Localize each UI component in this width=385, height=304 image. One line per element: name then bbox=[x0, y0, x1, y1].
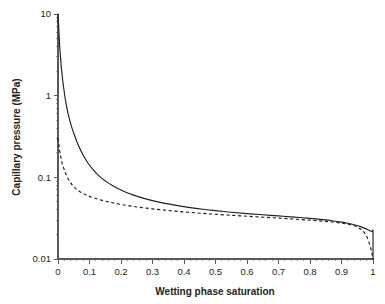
chart-canvas: 1010.10.01 00.10.20.30.40.50.60.70.80.91… bbox=[0, 0, 385, 304]
x-tick-label: 0.5 bbox=[209, 266, 222, 277]
capillary-pressure-chart: 1010.10.01 00.10.20.30.40.50.60.70.80.91… bbox=[0, 0, 385, 304]
x-tick-label: 0.2 bbox=[114, 266, 127, 277]
x-tick-label: 0 bbox=[55, 266, 60, 277]
y-axis-title: Capillary pressure (MPa) bbox=[11, 78, 22, 195]
x-tick-label: 0.1 bbox=[83, 266, 96, 277]
x-tick-label: 1 bbox=[370, 266, 375, 277]
y-tick-label: 0.1 bbox=[38, 172, 51, 183]
y-tick-label: 0.01 bbox=[33, 253, 52, 264]
x-tick-label: 0.4 bbox=[177, 266, 190, 277]
x-tick-label: 0.7 bbox=[272, 266, 285, 277]
y-tick-label: 1 bbox=[46, 90, 51, 101]
x-tick-label: 0.8 bbox=[303, 266, 316, 277]
x-tick-label: 0.3 bbox=[146, 266, 159, 277]
y-axis-tick-labels: 1010.10.01 bbox=[33, 8, 52, 264]
x-tick-label: 0.6 bbox=[240, 266, 253, 277]
x-axis-tick-labels: 00.10.20.30.40.50.60.70.80.91 bbox=[55, 266, 375, 277]
x-tick-label: 0.9 bbox=[335, 266, 348, 277]
series-solid-curve bbox=[58, 14, 373, 259]
series-dashed-curve bbox=[58, 138, 373, 259]
y-tick-label: 10 bbox=[40, 8, 51, 19]
x-axis-title: Wetting phase saturation bbox=[155, 286, 274, 297]
